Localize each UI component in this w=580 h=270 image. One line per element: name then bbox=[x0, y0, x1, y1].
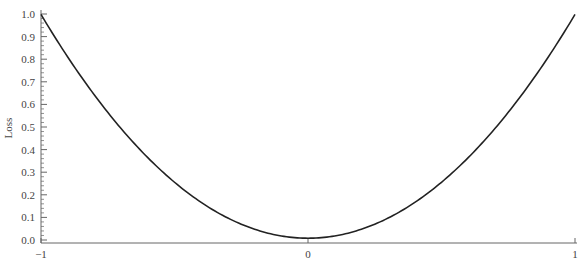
x-tick-label: −1 bbox=[35, 248, 47, 260]
y-tick-label: 0.1 bbox=[21, 211, 35, 223]
loss-chart: 0.00.10.20.30.40.50.60.70.80.91.0 −101 L… bbox=[0, 0, 580, 270]
y-tick-label: 0.8 bbox=[21, 53, 35, 65]
x-tick-label: 0 bbox=[305, 248, 311, 260]
y-tick-label: 0.6 bbox=[21, 98, 35, 110]
y-tick-label: 0.5 bbox=[21, 121, 35, 133]
x-axis-ticks: −101 bbox=[35, 238, 578, 260]
x-tick-label: 1 bbox=[572, 248, 578, 260]
y-tick-label: 1.0 bbox=[21, 8, 35, 20]
y-tick-label: 0.3 bbox=[21, 166, 35, 178]
y-tick-label: 0.0 bbox=[21, 234, 35, 246]
y-tick-label: 0.2 bbox=[21, 189, 35, 201]
y-tick-label: 0.9 bbox=[21, 31, 35, 43]
y-tick-label: 0.4 bbox=[21, 144, 35, 156]
y-axis-ticks: 0.00.10.20.30.40.50.60.70.80.91.0 bbox=[21, 8, 47, 246]
y-axis-label: Loss bbox=[2, 118, 14, 139]
y-tick-label: 0.7 bbox=[21, 76, 35, 88]
loss-curve bbox=[41, 14, 575, 238]
